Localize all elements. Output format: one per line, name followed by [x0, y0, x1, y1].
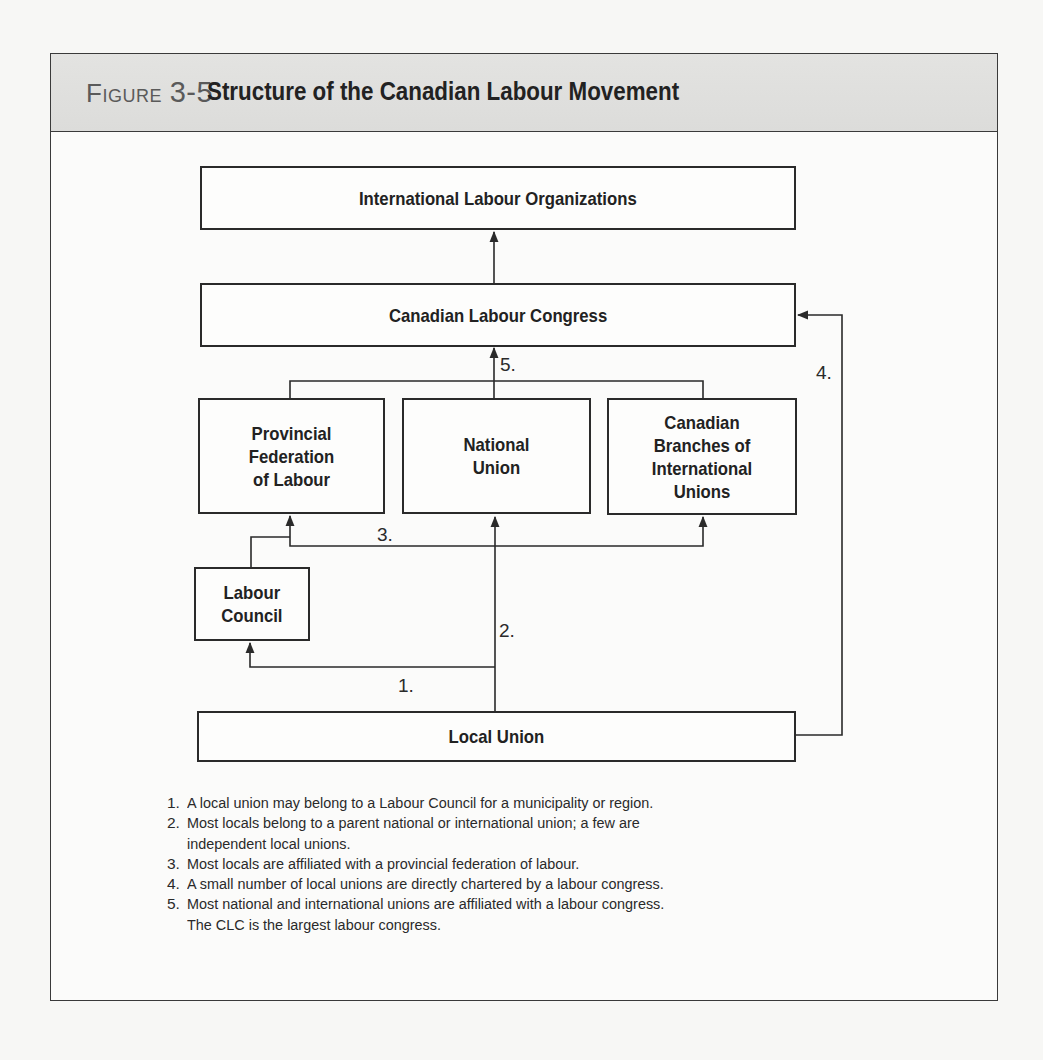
edge-label-1: 1.	[398, 675, 414, 697]
edge-label-3: 3.	[377, 524, 393, 546]
footnote-text: Most national and international unions a…	[187, 894, 831, 914]
arrow-to-branches	[495, 517, 703, 546]
footnote-text: Most locals belong to a parent national …	[187, 813, 831, 833]
node-label: International Labour Organizations	[359, 187, 637, 210]
footnote-1: 1. A local union may belong to a Labour …	[160, 793, 880, 813]
node-label: Provincial Federation of Labour	[249, 422, 334, 491]
node-provincial-federation: Provincial Federation of Labour	[198, 398, 385, 514]
footnote-number: 3.	[160, 854, 187, 874]
footnote-5: 5. Most national and international union…	[160, 894, 880, 935]
connector-mid-tier	[290, 381, 703, 398]
footnote-3: 3. Most locals are affiliated with a pro…	[160, 854, 880, 874]
connector-council-to-provincial	[251, 537, 290, 567]
footnote-4: 4. A small number of local unions are di…	[160, 874, 880, 894]
footnote-text-cont: independent local unions.	[187, 834, 831, 854]
edge-label-2: 2.	[499, 620, 515, 642]
node-local-union: Local Union	[197, 711, 796, 762]
node-label: Canadian Branches of International Union…	[652, 411, 752, 503]
node-national-union: National Union	[402, 398, 591, 514]
node-label: National Union	[464, 433, 530, 479]
node-label: Labour Council	[221, 581, 282, 627]
edge-label-4: 4.	[816, 362, 832, 384]
footnote-text: Most locals are affiliated with a provin…	[187, 854, 831, 874]
footnote-text-cont: The CLC is the largest labour congress.	[187, 915, 831, 935]
node-label: Canadian Labour Congress	[389, 304, 607, 327]
node-canadian-labour-congress: Canadian Labour Congress	[200, 283, 796, 347]
arrow-local-to-council	[250, 643, 495, 667]
footnote-text: A local union may belong to a Labour Cou…	[187, 793, 831, 813]
footnote-number: 1.	[160, 793, 187, 813]
node-label: Local Union	[449, 725, 545, 748]
footnote-text: A small number of local unions are direc…	[187, 874, 831, 894]
node-labour-council: Labour Council	[194, 567, 310, 641]
edge-label-5: 5.	[500, 354, 516, 376]
footnote-number: 4.	[160, 874, 187, 894]
footnote-2: 2. Most locals belong to a parent nation…	[160, 813, 880, 854]
node-canadian-branches: Canadian Branches of International Union…	[607, 398, 797, 515]
node-international-labour-organizations: International Labour Organizations	[200, 166, 796, 230]
footnote-number: 2.	[160, 813, 187, 854]
footnotes: 1. A local union may belong to a Labour …	[160, 793, 880, 935]
footnote-number: 5.	[160, 894, 187, 935]
